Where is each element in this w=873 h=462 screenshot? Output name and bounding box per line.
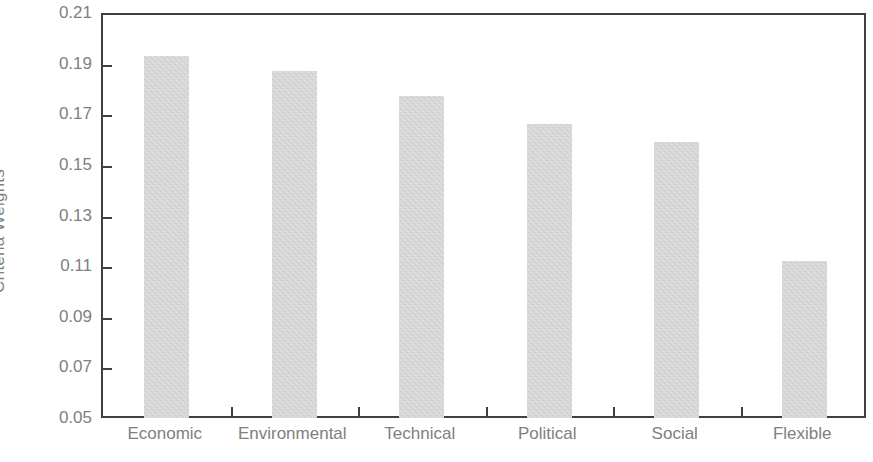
bar xyxy=(144,56,189,419)
plot-inner xyxy=(103,15,864,416)
x-axis-category-label: Political xyxy=(518,424,577,444)
y-axis-tick xyxy=(103,115,112,117)
y-axis-tick xyxy=(103,65,112,67)
x-axis-category-label: Technical xyxy=(384,424,455,444)
x-axis-category-labels: EconomicEnvironmentalTechnicalPoliticalS… xyxy=(101,424,866,462)
x-axis-category-label: Social xyxy=(652,424,698,444)
y-axis-tick-label: 0.15 xyxy=(30,155,92,175)
bar xyxy=(782,261,827,418)
y-axis-tick-labels: 0.050.070.090.110.130.150.170.190.21 xyxy=(30,0,92,462)
x-axis-tick xyxy=(486,407,488,416)
bar xyxy=(654,142,699,418)
y-axis-tick xyxy=(103,217,112,219)
y-axis-tick-label: 0.09 xyxy=(30,307,92,327)
y-axis-tick-label: 0.11 xyxy=(30,256,92,276)
y-axis-tick-label: 0.13 xyxy=(30,206,92,226)
y-axis-tick xyxy=(103,267,112,269)
x-axis-category-label: Economic xyxy=(127,424,202,444)
y-axis-tick xyxy=(103,368,112,370)
y-axis-tick-label: 0.21 xyxy=(30,3,92,23)
y-axis-tick xyxy=(103,318,112,320)
bar xyxy=(399,96,444,418)
bar xyxy=(527,124,572,418)
x-axis-category-label: Flexible xyxy=(773,424,832,444)
x-axis-tick xyxy=(613,407,615,416)
y-axis-tick-label: 0.19 xyxy=(30,54,92,74)
y-axis-tick xyxy=(103,166,112,168)
x-axis-category-label: Environmental xyxy=(238,424,347,444)
plot-area xyxy=(101,13,866,418)
y-axis-tick-label: 0.05 xyxy=(30,408,92,428)
x-axis-tick xyxy=(231,407,233,416)
y-axis-title: Criteria Weights xyxy=(0,0,30,462)
y-axis-tick-label: 0.17 xyxy=(30,104,92,124)
y-axis-tick-label: 0.07 xyxy=(30,357,92,377)
x-axis-tick xyxy=(741,407,743,416)
bar-chart: Criteria Weights 0.050.070.090.110.130.1… xyxy=(0,0,873,462)
y-axis-title-text: Criteria Weights xyxy=(0,169,9,293)
x-axis-tick xyxy=(358,407,360,416)
bar xyxy=(272,71,317,418)
